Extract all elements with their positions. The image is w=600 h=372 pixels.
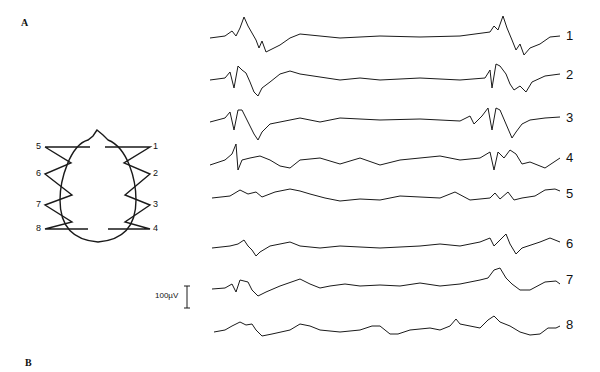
- eeg-trace-6: [212, 234, 560, 256]
- electrode-label-6: 6: [36, 168, 41, 178]
- electrode-label-4: 4: [153, 223, 158, 233]
- eeg-trace-3: [210, 108, 560, 140]
- trace-label-6: 6: [566, 236, 573, 251]
- electrode-label-3: 3: [153, 199, 158, 209]
- eeg-trace-7: [212, 268, 560, 296]
- electrode-label-5: 5: [36, 141, 41, 151]
- eeg-traces: [210, 16, 560, 336]
- eeg-trace-4: [210, 144, 560, 170]
- electrode-label-1: 1: [153, 141, 158, 151]
- trace-label-3: 3: [566, 110, 573, 125]
- electrode-label-2: 2: [153, 168, 158, 178]
- eeg-trace-1: [210, 16, 560, 55]
- trace-label-1: 1: [566, 28, 573, 43]
- electrode-label-7: 7: [36, 199, 41, 209]
- head-montage-diagram: [45, 130, 150, 242]
- electrode-label-8: 8: [36, 223, 41, 233]
- eeg-trace-8: [214, 316, 560, 336]
- trace-label-8: 8: [566, 317, 573, 332]
- trace-label-7: 7: [566, 272, 573, 287]
- scale-bar: [184, 286, 190, 308]
- scale-bar-label: 100µV: [155, 291, 178, 300]
- eeg-trace-2: [210, 64, 560, 96]
- trace-label-2: 2: [566, 67, 573, 82]
- eeg-trace-5: [212, 189, 560, 201]
- eeg-figure: [0, 0, 600, 372]
- trace-label-5: 5: [566, 186, 573, 201]
- trace-label-4: 4: [566, 150, 573, 165]
